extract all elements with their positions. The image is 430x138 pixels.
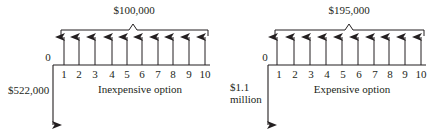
initial-outflow-label: $522,000	[8, 84, 50, 96]
period-labels: 1 2 3 4 5 6 7 8 9 10	[61, 68, 211, 80]
diagram-inexpensive: $100,000 0 1 2 3 4 5	[8, 4, 211, 125]
annual-inflow-label: $100,000	[113, 4, 155, 16]
period-label: 4	[324, 68, 330, 80]
period-label: 8	[170, 68, 176, 80]
inflow-arrows	[64, 37, 205, 65]
period-label: 3	[92, 68, 98, 80]
period-label: 9	[402, 68, 408, 80]
period-label: 7	[155, 68, 161, 80]
period-label: 6	[139, 68, 145, 80]
period-label: 4	[109, 68, 115, 80]
period-label: 10	[200, 68, 212, 80]
inflow-arrows	[277, 37, 421, 65]
period-label: 10	[416, 68, 428, 80]
period-label: 6	[356, 68, 362, 80]
origin-label: 0	[45, 51, 51, 63]
inflow-brace	[61, 24, 208, 36]
annual-inflow-label: $195,000	[328, 4, 370, 16]
inflow-brace	[275, 24, 424, 36]
cash-flow-diagrams: $100,000 0 1 2 3 4 5	[0, 0, 430, 138]
period-labels: 1 2 3 4 5 6 7 8 9 10	[276, 68, 427, 80]
diagram-expensive: $195,000 0 1 2 3 4 5	[230, 4, 427, 125]
diagram-caption: Inexpensive option	[98, 83, 183, 95]
diagram-caption: Expensive option	[314, 83, 391, 95]
initial-outflow-label-line2: million	[230, 93, 262, 105]
period-label: 7	[372, 68, 378, 80]
period-label: 5	[340, 68, 346, 80]
period-label: 3	[308, 68, 314, 80]
period-label: 1	[61, 68, 67, 80]
period-label: 8	[387, 68, 393, 80]
period-label: 2	[76, 68, 82, 80]
period-label: 1	[276, 68, 282, 80]
period-label: 5	[124, 68, 130, 80]
period-label: 9	[186, 68, 192, 80]
initial-outflow-label-line1: $1.1	[230, 81, 249, 93]
period-label: 2	[292, 68, 298, 80]
origin-label: 0	[262, 51, 268, 63]
